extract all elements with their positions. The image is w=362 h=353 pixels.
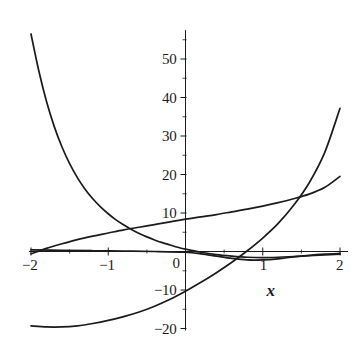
y-tick-label: 40 [0,91,177,106]
y-tick-label: 30 [0,129,177,144]
plot-figure: −20−101020304050−2−1012 x [0,0,362,353]
x-tick-label: −2 [22,258,37,273]
y-tick-label: −10 [0,283,177,298]
y-tick-label: 50 [0,52,177,67]
x-axis-label: x [267,282,276,299]
y-tick-label: 20 [0,168,177,183]
x-tick-label: 0 [173,256,180,271]
x-tick-label: −1 [99,258,114,273]
x-tick-label: 2 [336,258,343,273]
y-tick-label: −20 [0,322,177,337]
y-tick-label: 10 [0,206,177,221]
x-tick-label: 1 [260,258,267,273]
